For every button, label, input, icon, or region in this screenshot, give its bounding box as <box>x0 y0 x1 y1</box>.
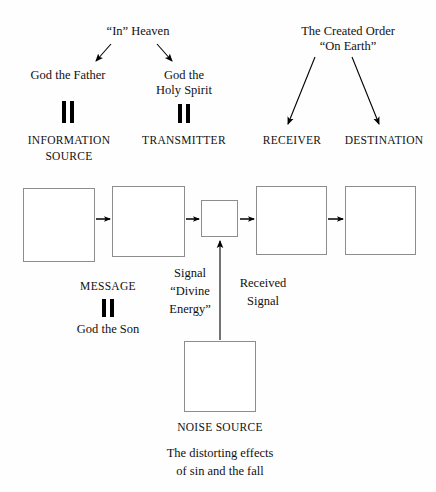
created-order-header-line2: “On Earth” <box>278 39 418 54</box>
arrow-earth-to-destination <box>352 57 379 124</box>
signal-label-line2: “Divine <box>155 284 225 299</box>
arrow-heaven-to-father <box>96 44 111 61</box>
box-destination <box>345 186 416 255</box>
noise-caption-line1: The distorting effects <box>140 446 300 461</box>
god-the-father-label: God the Father <box>12 68 124 83</box>
heaven-header-label: “In” Heaven <box>78 24 198 39</box>
message-label: MESSAGE <box>58 280 158 294</box>
god-the-holy-spirit-label-line1: God the <box>138 68 230 83</box>
god-the-son-label: God the Son <box>58 322 158 337</box>
box-signal-node <box>201 200 238 237</box>
stage-label-information-source-line2: SOURCE <box>10 150 128 164</box>
arrow-heaven-to-holy-spirit <box>157 44 172 61</box>
box-receiver <box>256 186 327 255</box>
received-signal-label-line1: Received <box>224 276 302 291</box>
box-information-source <box>23 188 95 262</box>
stage-label-destination: DESTINATION <box>334 134 434 148</box>
stage-label-transmitter: TRANSMITTER <box>127 134 241 148</box>
noise-source-label: NOISE SOURCE <box>155 421 285 435</box>
equals-mark-message <box>102 299 114 317</box>
received-signal-label-line2: Signal <box>224 294 302 309</box>
equals-mark-transmitter <box>178 104 190 123</box>
stage-label-receiver: RECEIVER <box>250 134 334 148</box>
box-transmitter <box>112 186 185 257</box>
god-the-holy-spirit-label-line2: Holy Spirit <box>138 83 230 98</box>
box-noise-source <box>184 341 256 412</box>
equals-mark-information-source <box>62 101 74 123</box>
created-order-header-line1: The Created Order <box>278 24 418 39</box>
arrow-earth-to-receiver <box>288 57 315 124</box>
signal-label-line3: Energy” <box>155 302 225 317</box>
stage-label-information-source-line1: INFORMATION <box>10 134 128 148</box>
signal-label-line1: Signal <box>155 266 225 281</box>
shannon-weaver-theology-diagram: “In” Heaven The Created Order “On Earth”… <box>0 0 436 492</box>
noise-caption-line2: of sin and the fall <box>140 464 300 479</box>
